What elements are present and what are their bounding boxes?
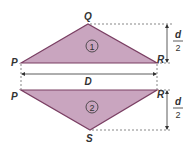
- vertex-q: Q: [84, 11, 92, 22]
- vertex-r-bottom: R: [157, 89, 165, 100]
- arrowhead-icon: [165, 59, 169, 63]
- height-top-den: 2: [175, 43, 180, 53]
- height-bottom-num: d: [175, 96, 182, 107]
- vertex-p-bottom: P: [11, 91, 18, 102]
- width-label: D: [84, 76, 91, 87]
- diagram-svg: 1 Q P R d 2 D 2 P R S d 2: [0, 0, 191, 149]
- vertex-p-top: P: [11, 57, 18, 68]
- height-bottom-den: 2: [175, 110, 180, 120]
- arrowhead-icon: [165, 24, 169, 28]
- height-top-num: d: [175, 29, 182, 40]
- arrowhead-icon: [165, 126, 169, 130]
- triangle-1-number: 1: [89, 42, 94, 52]
- arrowhead-icon: [21, 72, 25, 76]
- triangle-2-number: 2: [89, 103, 94, 113]
- arrowhead-icon: [165, 90, 169, 94]
- kite-split-diagram: 1 Q P R d 2 D 2 P R S d 2: [0, 0, 191, 149]
- vertex-s: S: [86, 133, 93, 144]
- arrowhead-icon: [153, 72, 157, 76]
